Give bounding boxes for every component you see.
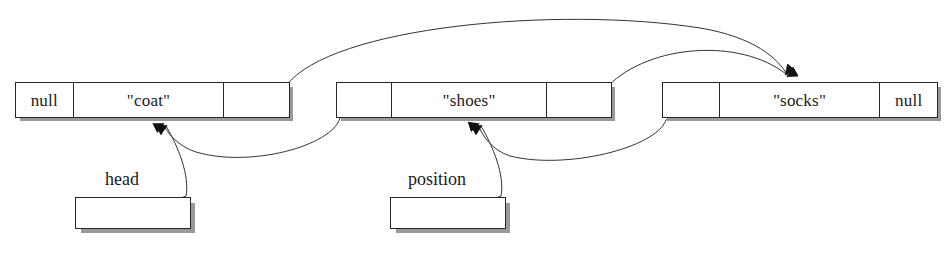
edge-shoes-next-to-socks bbox=[608, 50, 786, 86]
edge-shoes-prev-to-coat bbox=[163, 118, 340, 157]
node-coat-next-cell bbox=[223, 83, 289, 117]
node-socks-prev-cell bbox=[663, 83, 719, 117]
node-socks-next-cell: null bbox=[879, 83, 937, 117]
linked-list-diagram: null "coat" "shoes" "socks" null head po… bbox=[0, 0, 952, 253]
list-node-coat: null "coat" bbox=[15, 82, 290, 118]
node-shoes-value-cell: "shoes" bbox=[391, 83, 547, 117]
edge-head-to-coat bbox=[166, 126, 187, 196]
list-node-socks: "socks" null bbox=[662, 82, 938, 118]
node-socks-value-cell: "socks" bbox=[719, 83, 880, 117]
variable-box-head bbox=[75, 197, 191, 229]
edge-coat-next-to-socks bbox=[286, 19, 788, 86]
node-shoes-next-cell bbox=[546, 83, 611, 117]
variable-label-head: head bbox=[105, 170, 139, 188]
node-coat-value-cell: "coat" bbox=[73, 83, 224, 117]
node-coat-prev-cell: null bbox=[16, 83, 73, 117]
list-node-shoes: "shoes" bbox=[336, 82, 612, 118]
edge-socks-prev-to-shoes bbox=[478, 120, 666, 160]
variable-label-position: position bbox=[408, 170, 466, 188]
node-shoes-prev-cell bbox=[337, 83, 391, 117]
edge-position-to-shoes bbox=[481, 126, 502, 196]
variable-box-position bbox=[390, 197, 506, 229]
